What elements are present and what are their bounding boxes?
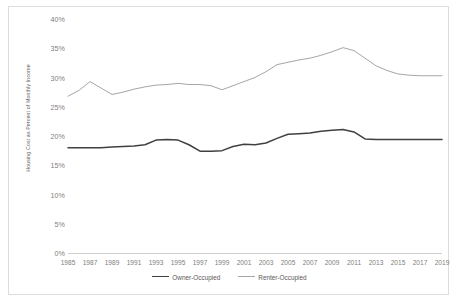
x-tick-2015: 2015 xyxy=(391,259,406,266)
chart-legend: Owner-OccupiedRenter-Occupied xyxy=(9,273,450,281)
x-tick-1989: 1989 xyxy=(105,259,120,266)
x-tick-1999: 1999 xyxy=(215,259,230,266)
x-axis-tick-labels: 1985198719891991199319951997199920012003… xyxy=(9,7,450,296)
x-tick-2011: 2011 xyxy=(347,259,361,266)
x-tick-1995: 1995 xyxy=(171,259,186,266)
legend-swatch-icon xyxy=(152,276,169,277)
x-tick-2013: 2013 xyxy=(369,259,384,266)
legend-item-renter-occupied[interactable]: Renter-Occupied xyxy=(238,273,306,281)
chart-container: Housing Cost as Percent of Monthly Incom… xyxy=(8,6,449,295)
x-tick-2017: 2017 xyxy=(413,259,428,266)
legend-label: Renter-Occupied xyxy=(258,274,306,281)
x-tick-1991: 1991 xyxy=(127,259,142,266)
legend-label: Owner-Occupied xyxy=(172,274,220,281)
x-tick-1987: 1987 xyxy=(83,259,98,266)
plot-area: Housing Cost as Percent of Monthly Incom… xyxy=(9,7,450,296)
x-tick-2001: 2001 xyxy=(237,259,252,266)
x-tick-2009: 2009 xyxy=(325,259,340,266)
x-tick-1985: 1985 xyxy=(61,259,76,266)
x-tick-2005: 2005 xyxy=(281,259,296,266)
legend-swatch-icon xyxy=(238,276,255,277)
x-tick-1993: 1993 xyxy=(149,259,164,266)
x-tick-1997: 1997 xyxy=(193,259,208,266)
x-tick-2003: 2003 xyxy=(259,259,274,266)
legend-item-owner-occupied[interactable]: Owner-Occupied xyxy=(152,273,220,281)
x-tick-2007: 2007 xyxy=(303,259,318,266)
x-tick-2019: 2019 xyxy=(435,259,450,266)
